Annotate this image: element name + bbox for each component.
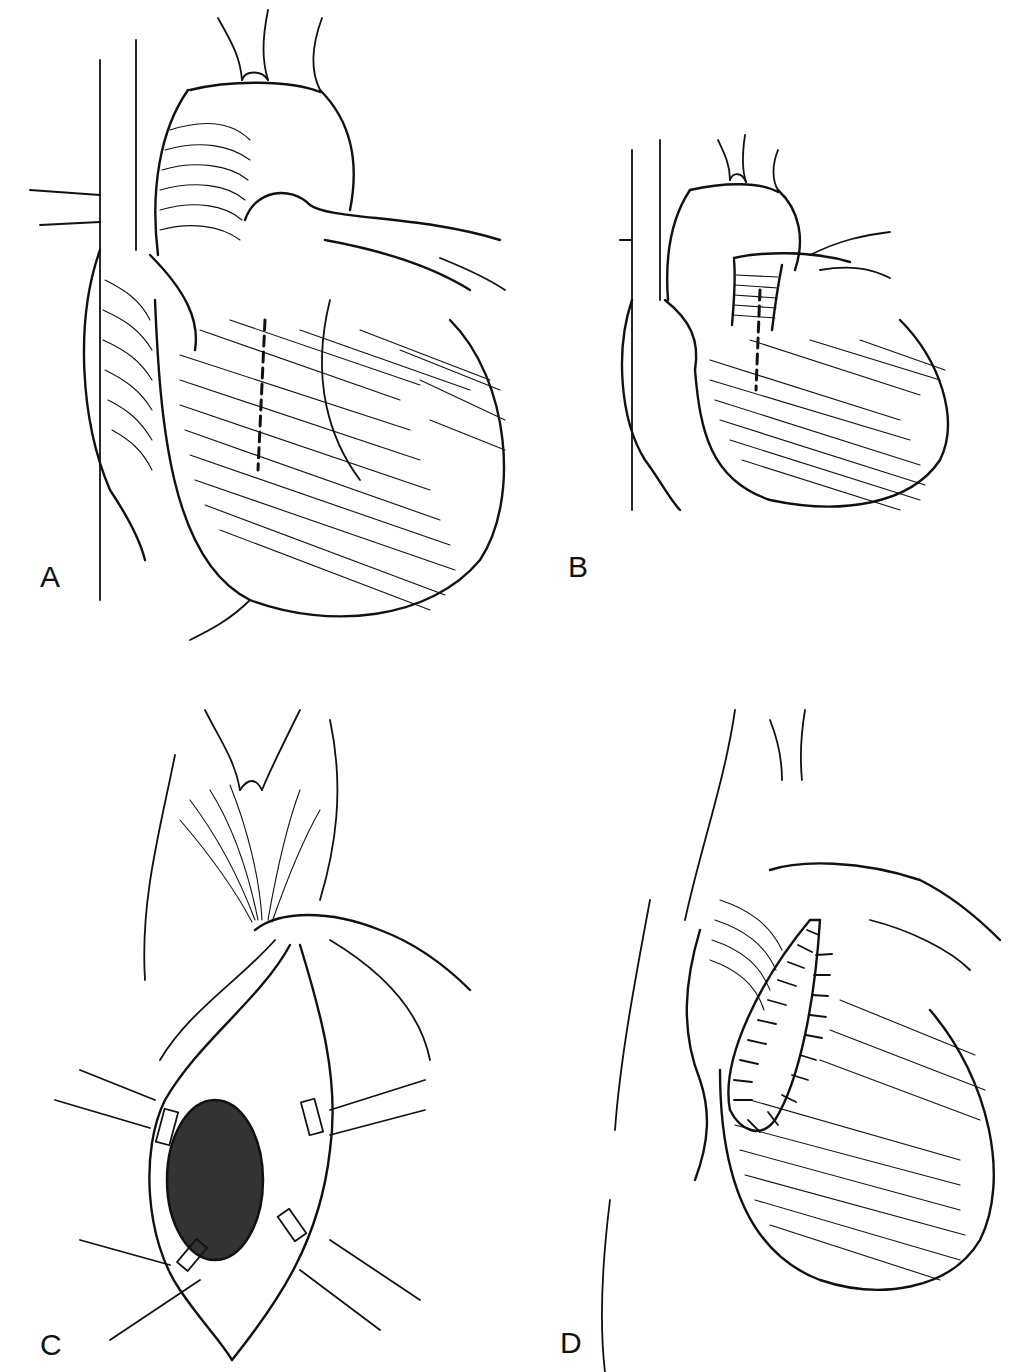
panel-a: A xyxy=(0,0,520,640)
panel-label-c: C xyxy=(40,1330,62,1360)
panel-d: D xyxy=(520,680,1020,1372)
panel-label-b: B xyxy=(568,552,588,582)
heart-illustration-d xyxy=(520,680,1020,1372)
panel-c: C xyxy=(0,680,520,1372)
surgical-figure: A xyxy=(0,0,1020,1372)
panel-label-a: A xyxy=(40,562,60,592)
heart-illustration-c xyxy=(0,680,520,1372)
heart-illustration-a xyxy=(0,0,520,640)
panel-b: B xyxy=(520,0,1020,640)
panel-label-d: D xyxy=(560,1328,582,1358)
heart-illustration-b xyxy=(520,0,1020,640)
hatched-defect xyxy=(167,1100,263,1260)
